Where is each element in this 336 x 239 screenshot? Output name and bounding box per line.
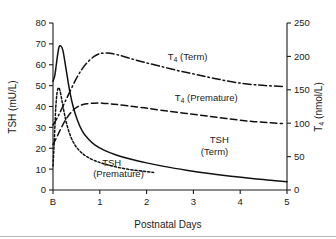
- left-tick-label: 40: [35, 101, 46, 112]
- x-axis-title: Postnatal Days: [134, 219, 201, 230]
- right-axis-ticks: 050100150200250: [287, 17, 310, 195]
- series-label-t4-term: T4 (Term): [168, 51, 208, 63]
- right-tick-label: 250: [294, 17, 310, 28]
- series-curve-t4-term: [53, 53, 282, 125]
- series-curve-tsh-term: [53, 46, 287, 182]
- chart-figure: 01020304050607080 050100150200250 B12345…: [0, 0, 336, 239]
- bottom-axis-ticks: B12345: [50, 190, 290, 207]
- series-label-tsh-premature-line2: (Premature): [93, 168, 144, 179]
- bottom-tick-label: 4: [238, 196, 243, 207]
- right-tick-label: 200: [294, 51, 310, 62]
- series-label-tsh-premature-line1: TSH: [102, 157, 121, 168]
- bottom-tick-label: 5: [284, 196, 289, 207]
- series-label-t4-premature: T4 (Premature): [175, 92, 238, 104]
- right-tick-label: 0: [294, 184, 299, 195]
- bottom-tick-label: 1: [97, 196, 102, 207]
- left-tick-label: 80: [35, 17, 46, 28]
- left-tick-label: 50: [35, 80, 46, 91]
- series-label-tsh-term-line2: (Term): [201, 146, 228, 157]
- chart-series-curves: [53, 46, 287, 182]
- left-tick-label: 10: [35, 164, 46, 175]
- chart-series-labels: TSH(Term)TSH(Premature)T4 (Term)T4 (Prem…: [93, 51, 238, 180]
- chart-canvas: 01020304050607080 050100150200250 B12345…: [0, 0, 336, 239]
- plot-axes: [53, 23, 287, 190]
- right-tick-label: 50: [294, 151, 305, 162]
- right-tick-label: 100: [294, 118, 310, 129]
- axis-titles: TSH (mU/L) T4 (nmol/L) Postnatal Days: [7, 80, 325, 230]
- bottom-tick-label: 2: [144, 196, 149, 207]
- left-axis-ticks: 01020304050607080: [35, 17, 53, 195]
- bottom-tick-label: 3: [191, 196, 196, 207]
- series-label-tsh-term-line1: TSH: [210, 134, 229, 145]
- left-tick-label: 70: [35, 38, 46, 49]
- y2-axis-title: T4 (nmol/L): [313, 82, 325, 131]
- right-tick-label: 150: [294, 84, 310, 95]
- left-tick-label: 30: [35, 122, 46, 133]
- left-tick-label: 0: [41, 184, 46, 195]
- left-tick-label: 60: [35, 59, 46, 70]
- left-tick-label: 20: [35, 143, 46, 154]
- y-axis-title: TSH (mU/L): [7, 80, 18, 133]
- bottom-tick-label: B: [50, 196, 56, 207]
